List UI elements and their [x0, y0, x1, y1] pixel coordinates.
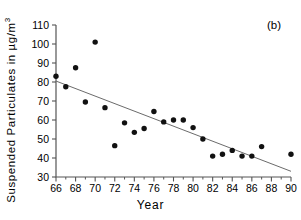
y-tick-label: 70	[37, 95, 49, 107]
data-point	[259, 144, 264, 149]
data-point	[200, 136, 205, 141]
y-tick-label: 100	[31, 38, 49, 50]
data-point	[132, 130, 137, 135]
data-point	[73, 65, 78, 70]
y-tick-label: 30	[37, 171, 49, 183]
data-point	[171, 117, 176, 122]
axis-spines	[56, 25, 291, 177]
y-tick-label: 40	[37, 152, 49, 164]
data-point	[190, 125, 195, 130]
x-axis-title: Year	[0, 198, 301, 212]
data-point	[220, 152, 225, 157]
data-point	[83, 99, 88, 104]
data-point	[151, 109, 156, 114]
x-tick-label: 74	[128, 182, 140, 194]
data-point	[112, 143, 117, 148]
y-tick-label: 60	[37, 114, 49, 126]
plot-area: 3040506070809010011066687072747678808284…	[0, 0, 301, 220]
x-tick-label: 70	[89, 182, 101, 194]
data-point	[181, 117, 186, 122]
data-point	[239, 153, 244, 158]
x-tick-label: 72	[109, 182, 121, 194]
x-tick-label: 82	[207, 182, 219, 194]
y-tick-label: 110	[32, 19, 49, 31]
x-tick-label: 88	[266, 182, 278, 194]
x-tick-label: 68	[70, 182, 82, 194]
data-point	[141, 126, 146, 131]
y-tick-label: 80	[37, 76, 49, 88]
chart-figure: Suspended Particulates in µg/m3 30405060…	[0, 0, 301, 220]
data-point	[92, 39, 97, 44]
data-point	[63, 84, 68, 89]
data-point	[122, 120, 127, 125]
data-point	[210, 153, 215, 158]
data-point	[102, 105, 107, 110]
data-point	[288, 152, 293, 157]
data-point	[230, 148, 235, 153]
data-point	[249, 153, 254, 158]
trend-line	[56, 81, 291, 171]
x-tick-label: 78	[168, 182, 180, 194]
data-point	[161, 119, 166, 124]
y-tick-label: 90	[37, 57, 49, 69]
x-tick-label: 84	[226, 182, 238, 194]
x-tick-label: 76	[148, 182, 160, 194]
x-tick-label: 80	[187, 182, 199, 194]
panel-label: (b)	[267, 19, 281, 31]
x-tick-label: 86	[246, 182, 258, 194]
x-tick-label: 66	[50, 182, 62, 194]
data-point	[53, 74, 58, 79]
x-tick-label: 90	[285, 182, 297, 194]
y-tick-label: 50	[37, 133, 49, 145]
